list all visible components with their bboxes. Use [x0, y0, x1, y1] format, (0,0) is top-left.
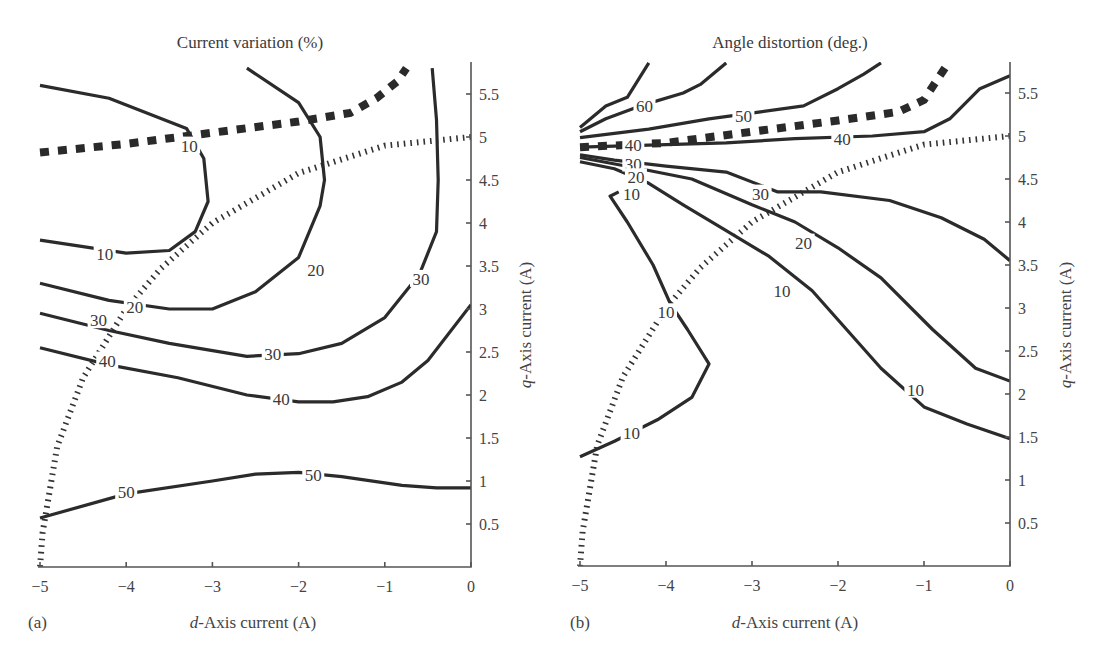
x-tick-label: −3: [743, 577, 760, 594]
y-tick-label: 2: [479, 387, 487, 404]
panel-b-xlabel-rest: -Axis current (A): [740, 613, 858, 632]
contour-line-50: [40, 472, 471, 518]
y-tick-label: 2.5: [1018, 343, 1038, 360]
contour-label: 10: [907, 381, 924, 400]
x-tick-label: −3: [204, 578, 221, 595]
x-tick-label: −1: [915, 577, 932, 594]
contour-label: 20: [795, 234, 812, 253]
contour-label: 40: [99, 352, 116, 371]
x-tick-label: −1: [376, 578, 393, 595]
y-tick-label: 3.5: [479, 258, 499, 275]
contour-label: 20: [126, 298, 143, 317]
panel-a-label: (a): [28, 613, 47, 632]
contour-label: 10: [623, 424, 640, 443]
y-tick-label: 5: [1018, 128, 1026, 145]
y-tick-label: 2.5: [479, 344, 499, 361]
panel-b-y-axis-label: q-Axis current (A): [1056, 262, 1075, 389]
contour-label: 20: [307, 261, 324, 280]
contour-label: 30: [752, 185, 769, 204]
contour-label: 40: [625, 136, 642, 155]
contour-label: 60: [636, 97, 653, 116]
contour-label: 10: [623, 185, 640, 204]
contour-label: 20: [627, 168, 644, 187]
contour-line-10: [580, 192, 709, 457]
contour-figure: Current variation (%) 101020203030304040…: [0, 0, 1099, 654]
x-tick-label: −5: [31, 578, 48, 595]
contour-label: 30: [413, 270, 430, 289]
panel-b-label: (b): [570, 613, 590, 632]
x-tick-label: −5: [571, 577, 588, 594]
y-tick-label: 1: [479, 473, 487, 490]
panel-b-title: Angle distortion (deg.): [712, 33, 867, 52]
contour-label: 50: [735, 107, 752, 126]
panel-b-plot-area: 60504040303020201010101010: [580, 63, 1010, 566]
x-tick-label: −2: [290, 578, 307, 595]
y-tick-label: 2: [1018, 386, 1026, 403]
contour-label: 40: [834, 130, 851, 149]
contour-label: 30: [264, 345, 281, 364]
y-tick-label: 3: [479, 301, 487, 318]
x-tick-label: −4: [118, 578, 135, 595]
y-tick-label: 0.5: [479, 516, 499, 533]
contour-line-50: [580, 63, 881, 138]
contour-line-20: [40, 68, 325, 309]
y-tick-label: 0.5: [1018, 515, 1038, 532]
y-tick-label: 3: [1018, 300, 1026, 317]
x-tick-label: 0: [1006, 577, 1014, 594]
panel-a-xlabel-rest: -Axis current (A): [198, 613, 316, 632]
y-tick-label: 4.5: [479, 172, 499, 189]
current-limit-circle: [580, 136, 1010, 566]
contour-line-60: [580, 63, 649, 128]
contour-label: 10: [774, 282, 791, 301]
contour-label: 40: [273, 390, 290, 409]
panel-b-angle-distortion: Angle distortion (deg.) 6050404030302020…: [570, 33, 1075, 632]
contour-label: 30: [90, 311, 107, 330]
mtpa-trajectory-line: [40, 68, 406, 152]
contour-line-10: [580, 162, 1010, 439]
y-tick-label: 1.5: [1018, 429, 1038, 446]
contour-label: 10: [181, 137, 198, 156]
panel-b-x-axis-label: d-Axis current (A): [732, 613, 859, 632]
y-tick-label: 4: [479, 215, 487, 232]
y-tick-label: 1.5: [479, 430, 499, 447]
contour-label: 10: [96, 245, 113, 264]
contour-line-10: [40, 85, 208, 253]
y-tick-label: 4.5: [1018, 171, 1038, 188]
y-tick-label: 5: [479, 129, 487, 146]
panel-b-ylabel-rest: -Axis current (A): [1056, 262, 1075, 380]
contour-label: 10: [658, 303, 675, 322]
x-tick-label: −4: [657, 577, 674, 594]
y-tick-label: 5.5: [479, 86, 499, 103]
panel-a-y-axis-label: q-Axis current (A): [516, 262, 535, 389]
panel-b-curves: 60504040303020201010101010: [580, 63, 1010, 566]
contour-label: 50: [305, 466, 322, 485]
contour-label: 50: [118, 483, 135, 502]
panel-a-current-variation: Current variation (%) 101020203030304040…: [28, 33, 535, 632]
y-tick-label: 4: [1018, 214, 1026, 231]
y-tick-label: 3.5: [1018, 257, 1038, 274]
panel-a-plot-area: 1010202030303040405050: [40, 68, 471, 567]
panel-a-title: Current variation (%): [177, 33, 323, 52]
panel-a-ylabel-rest: -Axis current (A): [516, 262, 535, 380]
panel-a-curves: 1010202030303040405050: [40, 68, 471, 567]
x-tick-label: 0: [467, 578, 475, 595]
panel-a-x-axis-label: d-Axis current (A): [190, 613, 317, 632]
y-tick-label: 5.5: [1018, 85, 1038, 102]
x-tick-label: −2: [829, 577, 846, 594]
y-tick-label: 1: [1018, 472, 1026, 489]
